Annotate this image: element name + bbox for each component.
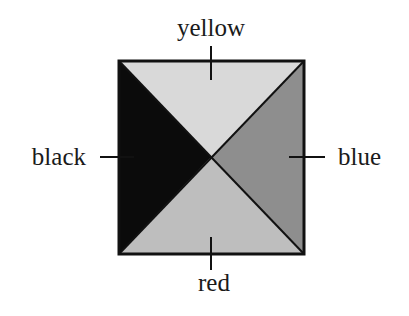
square-diagram: yellow red black blue [0,0,409,316]
label-yellow: yellow [177,14,245,41]
label-red: red [198,269,230,296]
label-black: black [32,143,87,170]
label-blue: blue [338,143,381,170]
